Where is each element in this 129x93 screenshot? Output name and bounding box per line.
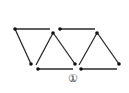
figure-label: ① bbox=[65, 72, 81, 86]
match-head-dot bbox=[29, 62, 33, 66]
match-head-dot bbox=[13, 27, 17, 31]
matchstick-segment bbox=[79, 33, 97, 65]
matchstick-segment bbox=[54, 34, 75, 64]
match-head-dot bbox=[51, 31, 55, 35]
match-head-dot bbox=[117, 62, 121, 66]
matchstick-segment bbox=[15, 29, 31, 64]
match-head-dot bbox=[73, 62, 77, 66]
match-head-dot bbox=[36, 67, 40, 71]
match-head-dot bbox=[79, 67, 83, 71]
dots-group bbox=[13, 27, 121, 71]
matchstick-segment bbox=[36, 33, 53, 65]
matchstick-segment bbox=[98, 34, 119, 64]
match-head-dot bbox=[95, 31, 99, 35]
match-head-dot bbox=[58, 27, 62, 31]
